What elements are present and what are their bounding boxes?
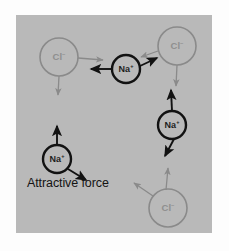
force-arrow-attractive (140, 58, 157, 66)
ion-circle-cl-top-right (158, 27, 196, 65)
force-arrow-repulsive (166, 168, 168, 190)
ion-circle-cl-top-left (40, 38, 78, 76)
ion-circle-na-top-middle (112, 55, 140, 83)
force-arrow-repulsive (78, 58, 103, 60)
ion-circle-na-right (158, 111, 186, 139)
ionic-bond-diagram: Cl–Na+Cl–Na+Cl–Na+ Attractive force (0, 0, 229, 251)
ion-circle-cl-bottom-right (149, 189, 187, 227)
ion-layer (40, 27, 196, 227)
force-arrow-repulsive (58, 76, 59, 95)
force-arrow-repulsive (141, 51, 158, 57)
ion-circle-na-bottom-left (43, 145, 71, 173)
force-arrow-repulsive (176, 65, 177, 86)
force-arrow-repulsive (134, 183, 153, 196)
force-arrow-attractive (171, 90, 172, 111)
attractive-force-caption: Attractive force (27, 176, 109, 190)
diagram-canvas (0, 0, 229, 251)
force-arrow-attractive (165, 139, 174, 156)
